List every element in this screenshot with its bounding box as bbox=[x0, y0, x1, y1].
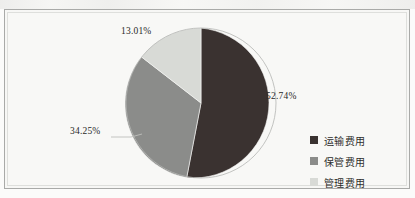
legend-swatch-transport bbox=[310, 136, 318, 144]
legend-swatch-storage bbox=[310, 157, 318, 165]
scan-artifact-strip bbox=[0, 0, 415, 9]
legend-label-storage: 保管费用 bbox=[324, 154, 366, 169]
chart-frame-inner: 52.74% 34.25% 13.01% 运输费用 保管费用 管理费用 bbox=[7, 12, 407, 186]
data-label-transport: 52.74% bbox=[266, 91, 297, 101]
chart-page: 52.74% 34.25% 13.01% 运输费用 保管费用 管理费用 bbox=[0, 0, 415, 198]
legend-item-transport: 运输费用 bbox=[310, 130, 366, 150]
legend-item-management: 管理费用 bbox=[310, 172, 366, 192]
pie-slices bbox=[125, 28, 269, 178]
legend-label-transport: 运输费用 bbox=[324, 133, 366, 148]
leader-line-storage bbox=[111, 133, 143, 141]
legend-item-storage: 保管费用 bbox=[310, 151, 366, 171]
legend-swatch-management bbox=[310, 178, 318, 186]
legend-label-management: 管理费用 bbox=[324, 175, 366, 190]
chart-legend: 运输费用 保管费用 管理费用 bbox=[310, 130, 366, 193]
plot-area: 52.74% 34.25% 13.01% 运输费用 保管费用 管理费用 bbox=[8, 13, 406, 185]
data-label-storage: 34.25% bbox=[70, 126, 101, 136]
chart-frame: 52.74% 34.25% 13.01% 运输费用 保管费用 管理费用 bbox=[4, 9, 410, 189]
data-label-management: 13.01% bbox=[121, 26, 152, 36]
pie-chart bbox=[122, 27, 280, 181]
